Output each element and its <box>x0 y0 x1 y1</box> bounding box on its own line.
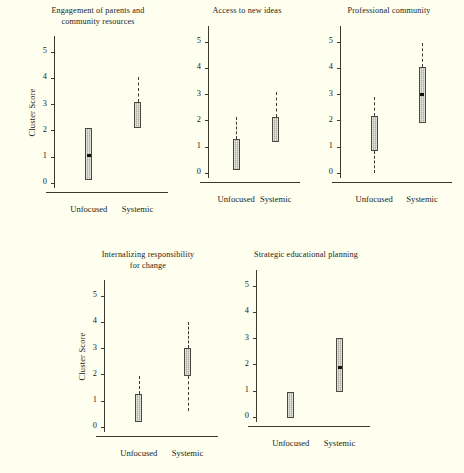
plot-area: 012345UnfocusedSystemic <box>104 280 220 436</box>
panel-3: Internalizing responsibility for change0… <box>72 250 224 468</box>
y-tick <box>51 130 54 131</box>
y-axis-label: Cluster Score <box>28 79 37 147</box>
panel-1: Access to new ideas012345UnfocusedSystem… <box>188 6 306 224</box>
y-axis-label: Cluster Score <box>78 323 87 391</box>
y-tick-label: 0 <box>187 168 201 176</box>
y-tick-label: 0 <box>83 422 97 430</box>
x-tick-label: Systemic <box>104 205 172 214</box>
y-tick-label: 1 <box>83 396 97 404</box>
median-marker <box>87 154 91 158</box>
y-tick-label: 2 <box>319 116 333 124</box>
y-tick <box>101 374 104 375</box>
x-axis-line <box>332 182 452 183</box>
y-tick <box>337 120 340 121</box>
y-tick <box>253 391 256 392</box>
y-tick-label: 3 <box>319 90 333 98</box>
x-tick-label: Systemic <box>306 439 374 448</box>
box-unfocused <box>233 139 240 170</box>
panel-4: Strategic educational planning012345Unfo… <box>236 250 376 468</box>
y-tick <box>205 42 208 43</box>
panel-title: Internalizing responsibility for change <box>72 250 224 271</box>
y-tick <box>101 322 104 323</box>
y-tick <box>253 312 256 313</box>
y-axis-line <box>208 26 209 178</box>
panel-title: Engagement of parents and community reso… <box>22 6 174 27</box>
y-tick <box>253 417 256 418</box>
y-tick <box>253 286 256 287</box>
y-tick <box>205 68 208 69</box>
y-tick-label: 5 <box>319 37 333 45</box>
y-tick-label: 4 <box>187 63 201 71</box>
y-tick <box>101 348 104 349</box>
x-tick-label: Systemic <box>242 195 310 204</box>
box-unfocused <box>135 394 142 422</box>
plot-area: 012345UnfocusedSystemic <box>256 270 372 426</box>
whisker-upper <box>188 322 189 348</box>
y-tick-label: 0 <box>235 412 249 420</box>
y-tick-label: 3 <box>187 90 201 98</box>
y-tick-label: 5 <box>187 37 201 45</box>
y-tick-label: 5 <box>235 281 249 289</box>
box-unfocused <box>371 116 378 150</box>
plot-area: 012345UnfocusedSystemic <box>54 36 170 192</box>
y-tick <box>51 78 54 79</box>
panel-2: Professional community012345UnfocusedSys… <box>320 6 458 224</box>
x-axis-line <box>200 182 300 183</box>
y-tick-label: 0 <box>33 178 47 186</box>
x-tick-label: Systemic <box>388 195 456 204</box>
y-tick <box>337 42 340 43</box>
panel-title: Access to new ideas <box>188 6 306 17</box>
median-marker <box>338 366 342 370</box>
y-tick-label: 4 <box>319 63 333 71</box>
y-tick-label: 2 <box>235 360 249 368</box>
y-tick <box>51 183 54 184</box>
y-axis-line <box>104 280 105 432</box>
y-tick <box>253 338 256 339</box>
y-tick-label: 1 <box>187 142 201 150</box>
whisker-upper <box>236 117 237 139</box>
x-axis-line <box>248 426 370 427</box>
panel-title: Professional community <box>320 6 458 17</box>
x-tick-label: Systemic <box>154 449 222 458</box>
whisker-upper <box>276 92 277 118</box>
median-marker <box>420 93 424 97</box>
plot-area: 012345UnfocusedSystemic <box>208 26 302 182</box>
y-axis-line <box>256 270 257 422</box>
y-tick-label: 1 <box>235 386 249 394</box>
y-axis-line <box>340 26 341 178</box>
x-axis-line <box>96 436 218 437</box>
y-tick <box>337 94 340 95</box>
y-tick <box>337 147 340 148</box>
y-tick <box>205 147 208 148</box>
box-systemic <box>134 102 141 129</box>
y-tick <box>205 120 208 121</box>
y-axis-line <box>54 36 55 188</box>
y-tick <box>51 104 54 105</box>
y-tick-label: 0 <box>319 168 333 176</box>
plot-area: 012345UnfocusedSystemic <box>340 26 454 182</box>
y-tick-label: 1 <box>319 142 333 150</box>
y-tick <box>51 157 54 158</box>
y-tick <box>101 427 104 428</box>
y-tick <box>101 296 104 297</box>
box-systemic <box>184 348 191 376</box>
box-unfocused <box>287 392 294 418</box>
y-tick-label: 3 <box>235 334 249 342</box>
box-systemic <box>272 117 279 142</box>
y-tick <box>205 173 208 174</box>
y-tick-label: 4 <box>235 307 249 315</box>
y-tick <box>337 173 340 174</box>
y-tick-label: 5 <box>83 291 97 299</box>
whisker-lower <box>374 151 375 173</box>
box-plot-figure: Engagement of parents and community reso… <box>0 0 464 473</box>
whisker-upper <box>139 376 140 394</box>
y-tick <box>205 94 208 95</box>
y-tick-label: 5 <box>33 47 47 55</box>
x-axis-line <box>46 192 168 193</box>
panel-0: Engagement of parents and community reso… <box>22 6 174 224</box>
whisker-lower <box>188 376 189 411</box>
y-tick <box>51 52 54 53</box>
whisker-upper <box>374 97 375 117</box>
y-tick <box>253 364 256 365</box>
y-tick-label: 1 <box>33 152 47 160</box>
